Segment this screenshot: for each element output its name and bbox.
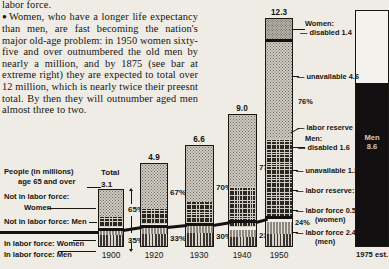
callout-women-unavailable-text: unavailable 4.6 bbox=[306, 72, 359, 81]
segment-1920-women-in-labor bbox=[141, 227, 167, 234]
callout-men-labor-reserve-text: labor reserve: 0.5 bbox=[305, 186, 366, 195]
year-label-1940: 1940 bbox=[223, 250, 261, 260]
arrow-head-1900-down bbox=[129, 249, 133, 252]
segment-1950-men-unavailable bbox=[266, 188, 292, 206]
year-label-1900: 1900 bbox=[92, 250, 130, 260]
article-text: labor force. ●Women, who have a longer l… bbox=[2, 0, 198, 116]
segment-1900-women-not-in-labor bbox=[99, 190, 123, 217]
year-label-1975: 1975 est. bbox=[352, 250, 389, 259]
segment-1950-women-disabled bbox=[266, 19, 292, 39]
callout-men-disabled: — disabled 1.6 bbox=[298, 144, 350, 152]
bar-1920 bbox=[140, 163, 168, 247]
forecast-men-title: Men bbox=[356, 133, 388, 142]
bar-1940 bbox=[228, 114, 257, 247]
callout-men-labor-reserve: — labor reserve: 0.5 bbox=[296, 187, 367, 195]
callout-women-labor-reserve-text: labor reserve 0.1 bbox=[306, 123, 365, 132]
labor-force-divider-1950-bar bbox=[265, 216, 293, 219]
top-label-1950: 12.3 bbox=[261, 8, 297, 17]
year-label-1930: 1930 bbox=[180, 250, 218, 260]
legend-leader-men-in-labor bbox=[58, 251, 96, 252]
segment-1950-men-disabled bbox=[266, 163, 292, 188]
bar-1930 bbox=[185, 145, 214, 247]
leader-men-disabled bbox=[293, 147, 305, 148]
pct-not-in-labor-1920: 67% bbox=[170, 188, 186, 197]
segment-1920-men-in-labor bbox=[141, 234, 167, 246]
callout-labor-force-men-sub: (men) bbox=[315, 238, 335, 246]
segment-1930-men-in-labor bbox=[186, 233, 213, 246]
callout-men-disabled-text: disabled 1.6 bbox=[307, 143, 349, 152]
infographic-root: labor force. ●Women, who have a longer l… bbox=[0, 0, 389, 269]
legend-units-line-1: People (in millions) bbox=[4, 168, 74, 176]
legend-item-not-in-labor-force: Not in labor force: bbox=[4, 193, 69, 201]
bar-1950 bbox=[265, 18, 293, 247]
callout-men-unavailable-text: unavailable 1.2 bbox=[305, 166, 358, 175]
legend-item-men-not-in-labor: Not in labor force: Men bbox=[4, 218, 87, 226]
leader-men-unavailable bbox=[293, 170, 298, 171]
labor-force-divider-1930-bar bbox=[185, 223, 214, 226]
legend-item-women-in-labor: In labor force: Women bbox=[4, 240, 84, 248]
leader-women-disabled bbox=[293, 29, 305, 30]
legend-leader-women-not-in-labor bbox=[48, 208, 96, 209]
segment-1940-women-not-in-labor bbox=[229, 115, 256, 187]
leader-women-unavailable bbox=[293, 76, 299, 77]
leader-labor-force-women bbox=[293, 210, 298, 211]
segment-1930-women-in-labor bbox=[186, 226, 213, 233]
total-value-1900: 3.1 bbox=[101, 180, 112, 189]
segment-1900-men-in-labor bbox=[99, 235, 123, 246]
callout-women-disabled-text: disabled 1.4 bbox=[309, 28, 351, 37]
callout-women-labor-reserve: — labor reserve 0.1 bbox=[297, 124, 365, 132]
article-paragraph-1: labor force. bbox=[2, 0, 198, 11]
legend-leader-women-in-labor bbox=[73, 240, 96, 241]
segment-1900-men-not-in-labor bbox=[99, 217, 123, 227]
legend-leader-men-not-in-labor bbox=[89, 222, 97, 223]
segment-1930-women-not-in-labor bbox=[186, 146, 213, 202]
legend-item-men-in-labor: In labor force: Men bbox=[4, 251, 72, 259]
callout-pct-24: 24% bbox=[295, 219, 310, 227]
segment-1950-men-in-labor bbox=[266, 234, 292, 246]
callout-labor-force-women-text: labor force 0.5 bbox=[305, 206, 356, 215]
bar-1900 bbox=[98, 189, 124, 247]
top-label-1920: 4.9 bbox=[136, 153, 172, 162]
callout-men-unavailable: — unavailable 1.2 bbox=[296, 167, 358, 175]
leader-labor-force-men bbox=[293, 232, 298, 233]
callout-labor-force-men-text: labor force 2.4 bbox=[305, 228, 356, 237]
segment-1930-men-not-in-labor bbox=[186, 202, 213, 223]
arrow-stem-1900-upper bbox=[131, 191, 132, 204]
segment-1975-women-estimate bbox=[356, 11, 388, 83]
article-paragraph-2-text: Women, who have a longer life expectancy… bbox=[2, 11, 198, 116]
segment-1950-women-unavailable bbox=[266, 42, 292, 139]
arrow-head-1900-up bbox=[129, 188, 133, 191]
callout-women-unavailable: — unavailable 4.6 bbox=[297, 73, 359, 81]
segment-1940-men-in-labor bbox=[229, 237, 256, 246]
labor-force-divider-1900 bbox=[0, 231, 98, 234]
callout-labor-force-women-sub: (women) bbox=[315, 216, 345, 224]
pct-in-labor-1920: 33% bbox=[170, 234, 186, 243]
segment-1920-men-not-in-labor bbox=[141, 209, 167, 224]
article-paragraph-2: ●Women, who have a longer life expectanc… bbox=[2, 11, 198, 116]
year-label-1920: 1920 bbox=[135, 250, 173, 260]
callout-women-disabled: — disabled 1.4 bbox=[300, 29, 352, 37]
bullet-icon: ● bbox=[2, 12, 8, 21]
forecast-men-label: Men 8.6 bbox=[356, 133, 388, 151]
year-label-1950: 1950 bbox=[260, 250, 298, 260]
top-label-1930: 6.6 bbox=[181, 135, 217, 144]
labor-force-divider-1920-bar bbox=[140, 225, 168, 228]
segment-1950-women-in-labor bbox=[266, 222, 292, 234]
labor-force-divider-1940-bar bbox=[228, 220, 257, 223]
total-leader-line bbox=[87, 187, 101, 188]
segment-1920-women-not-in-labor bbox=[141, 164, 167, 209]
segment-1975-men-estimate: Men 8.6 bbox=[356, 83, 388, 246]
segment-1940-women-in-labor bbox=[229, 230, 256, 237]
labor-force-divider-1900-bar bbox=[98, 228, 124, 231]
segment-1950-women-labor-reserve bbox=[266, 139, 292, 163]
total-word-label: Total bbox=[101, 168, 120, 177]
legend-units-line-2: age 65 and over bbox=[18, 178, 75, 186]
forecast-men-value: 8.6 bbox=[356, 142, 388, 151]
callout-pct-76: 76% bbox=[298, 98, 313, 106]
top-label-1940: 9.0 bbox=[224, 104, 260, 113]
leader-men-labor-reserve bbox=[293, 190, 298, 191]
